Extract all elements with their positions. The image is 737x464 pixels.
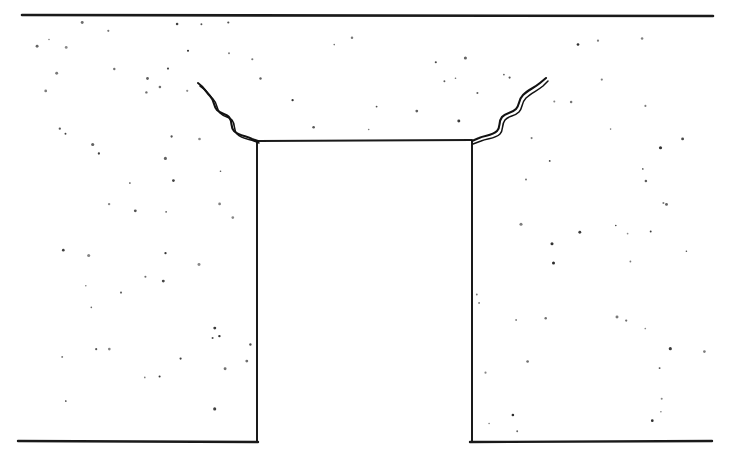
trench-cross-section-figure <box>0 0 737 464</box>
right-tension-crack-outer <box>472 78 546 141</box>
right-base-line <box>470 441 712 442</box>
trench-top-edge <box>258 140 472 141</box>
ground-surface-line <box>22 15 713 16</box>
soil-stipple-layer <box>36 21 706 432</box>
left-tension-crack-inner <box>200 86 259 143</box>
left-base-line <box>18 441 258 442</box>
figure-canvas <box>0 0 737 464</box>
